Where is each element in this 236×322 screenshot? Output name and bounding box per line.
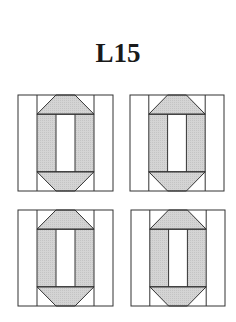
right-stripe (75, 229, 94, 287)
right-stripe (186, 114, 205, 172)
right-stripe (187, 229, 206, 287)
block-top-right (130, 95, 224, 191)
left-stripe (149, 114, 168, 172)
block-bottom-left (18, 210, 113, 306)
block-top-left (18, 95, 113, 191)
left-stripe (37, 229, 56, 287)
quilt-blocks-grid (0, 0, 236, 322)
right-stripe (75, 114, 94, 172)
block-bottom-right (131, 210, 225, 306)
left-stripe (37, 114, 56, 172)
left-stripe (150, 229, 169, 287)
